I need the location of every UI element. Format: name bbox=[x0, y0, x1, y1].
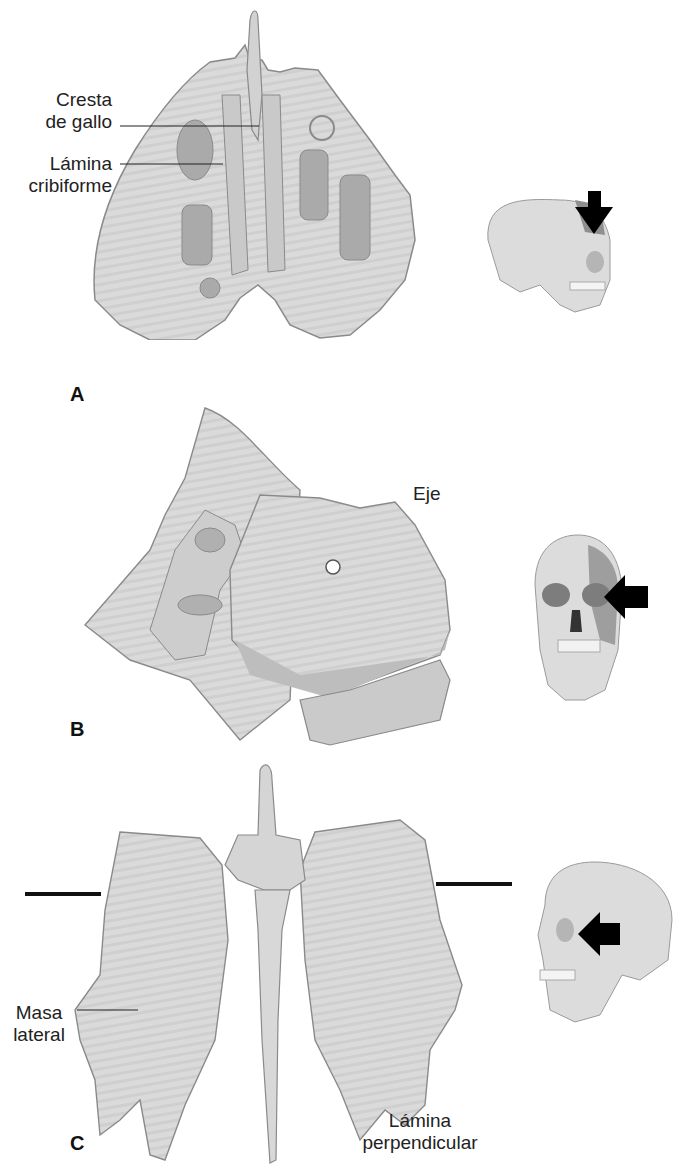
ethmoid-posterior-view-illustration bbox=[0, 760, 687, 1167]
axis-point-marker bbox=[326, 560, 340, 574]
label-line: de gallo bbox=[28, 111, 112, 133]
panel-b: Eje B bbox=[0, 400, 687, 760]
panel-c: Masa lateral Lámina perpendicular C bbox=[0, 760, 687, 1167]
label-line: lateral bbox=[8, 1024, 70, 1046]
label-crista-galli: Cresta de gallo bbox=[28, 89, 112, 133]
label-perpendicular-plate: Lámina perpendicular bbox=[350, 1110, 490, 1154]
skull-frontal-icon bbox=[535, 535, 622, 700]
panel-letter-b: B bbox=[70, 718, 84, 741]
label-axis: Eje bbox=[413, 483, 440, 505]
panel-letter-c: C bbox=[70, 1132, 84, 1155]
panel-a: Cresta de gallo Lámina cribiforme A bbox=[0, 0, 687, 340]
label-line: Lámina bbox=[14, 153, 112, 175]
label-line: cribiforme bbox=[14, 175, 112, 197]
label-cribriform-plate: Lámina cribiforme bbox=[14, 153, 112, 197]
label-line: Cresta bbox=[28, 89, 112, 111]
label-lateral-mass: Masa lateral bbox=[8, 1002, 70, 1046]
label-line: perpendicular bbox=[350, 1132, 490, 1154]
ethmoid-lateral-view-illustration bbox=[0, 400, 687, 760]
label-line: Masa bbox=[8, 1002, 70, 1024]
label-line: Lámina bbox=[350, 1110, 490, 1132]
